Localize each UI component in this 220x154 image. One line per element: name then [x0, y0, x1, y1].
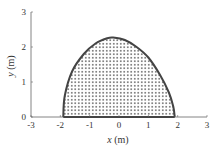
x-tick-label: 2	[175, 120, 180, 130]
x-tick-label: -3	[27, 120, 35, 130]
x-tick-label: 0	[117, 120, 122, 130]
x-tick-label: 3	[205, 120, 210, 130]
y-axis-label: y (m)	[5, 55, 17, 77]
y-tick-label: 1	[22, 77, 27, 87]
x-axis-label: x (m)	[106, 134, 128, 146]
x-tick-label: -2	[57, 120, 65, 130]
y-tick-label: 2	[22, 42, 27, 52]
plot-area	[63, 37, 174, 117]
y-tick-label: 3	[22, 7, 27, 17]
dotted-region	[63, 37, 174, 117]
y-tick-label: 0	[22, 112, 27, 122]
x-tick-label: -1	[86, 120, 94, 130]
x-tick-label: 1	[146, 120, 151, 130]
chart: -3-2-101230123 x (m) y (m)	[0, 0, 220, 154]
